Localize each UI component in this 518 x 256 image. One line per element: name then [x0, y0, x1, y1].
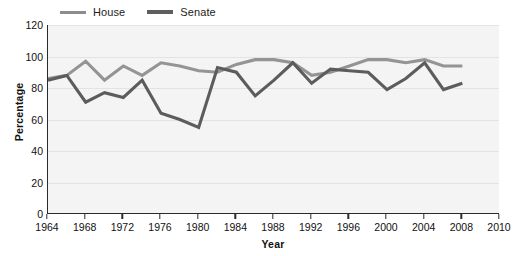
- x-tick-label: 1984: [224, 222, 247, 233]
- x-tick: [84, 214, 85, 219]
- x-tick-label: 1976: [148, 222, 171, 233]
- legend-label-house: House: [93, 7, 125, 18]
- x-tick: [348, 214, 349, 219]
- legend-item-senate: Senate: [147, 7, 215, 18]
- x-tick-label: 1996: [337, 222, 360, 233]
- x-tick: [310, 214, 311, 219]
- plot-inner: [48, 25, 499, 213]
- x-tick: [46, 214, 47, 219]
- x-tick: [272, 214, 273, 219]
- x-tick-label: 2008: [450, 222, 473, 233]
- series-line-house: [48, 60, 462, 80]
- y-tick-label: 0: [17, 209, 43, 220]
- legend-swatch-house-icon: [60, 11, 86, 14]
- x-tick: [423, 214, 424, 219]
- chart-figure: House Senate 020406080100120 19641968197…: [0, 0, 518, 256]
- x-tick: [122, 214, 123, 219]
- x-tick: [461, 214, 462, 219]
- x-axis-title: Year: [47, 238, 499, 250]
- series-line-senate: [48, 63, 462, 128]
- x-tick-label: 2004: [412, 222, 435, 233]
- x-tick-label: 2010: [487, 222, 510, 233]
- legend-item-house: House: [60, 7, 125, 18]
- x-tick: [498, 214, 499, 219]
- y-tick-label: 20: [17, 177, 43, 188]
- legend-label-senate: Senate: [180, 7, 215, 18]
- x-axis-tick-labels: 1964196819721976198019841988199219962000…: [47, 222, 499, 236]
- plot-area: [47, 25, 499, 214]
- x-axis-ticks: [47, 214, 499, 220]
- x-tick-label: 1988: [261, 222, 284, 233]
- y-axis-title: Percentage: [13, 57, 25, 167]
- x-tick-label: 1972: [111, 222, 134, 233]
- x-tick-label: 1968: [73, 222, 96, 233]
- x-tick-label: 1980: [186, 222, 209, 233]
- x-tick-label: 1992: [299, 222, 322, 233]
- chart-legend: House Senate: [60, 3, 216, 21]
- x-tick: [197, 214, 198, 219]
- legend-swatch-senate-icon: [147, 10, 173, 14]
- x-tick: [235, 214, 236, 219]
- x-tick: [385, 214, 386, 219]
- series-lines: [48, 25, 499, 213]
- x-tick-label: 2000: [374, 222, 397, 233]
- y-tick-label: 120: [17, 20, 43, 31]
- x-tick: [159, 214, 160, 219]
- x-tick-label: 1964: [35, 222, 58, 233]
